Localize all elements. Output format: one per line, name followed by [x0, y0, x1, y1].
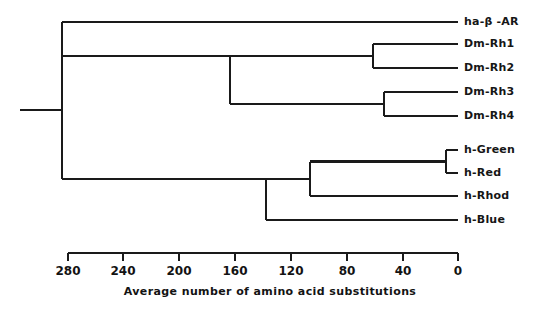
leaf-label-h-red: h-Red [464, 167, 501, 178]
leaf-label-ha-b-ar: ha-β -AR [464, 16, 519, 27]
leaf-label-dm-rh4: Dm-Rh4 [464, 110, 514, 121]
axis-tick-label-0: 0 [454, 265, 462, 277]
axis-tick-label-120: 120 [278, 265, 303, 277]
axis-title: Average number of amino acid substitutio… [0, 286, 540, 297]
leaf-label-h-green: h-Green [464, 144, 515, 155]
axis-tick-label-80: 80 [339, 265, 356, 277]
leaf-label-h-rhod: h-Rhod [464, 190, 509, 201]
leaf-label-dm-rh2: Dm-Rh2 [464, 62, 514, 73]
axis-tick-label-280: 280 [55, 265, 80, 277]
leaf-label-dm-rh1: Dm-Rh1 [464, 38, 514, 49]
axis-tick-label-200: 200 [166, 265, 191, 277]
leaf-label-dm-rh3: Dm-Rh3 [464, 86, 514, 97]
axis-tick-label-240: 240 [110, 265, 135, 277]
axis-scale-line [68, 253, 458, 261]
axis-tick-label-160: 160 [222, 265, 247, 277]
axis-tick-label-40: 40 [395, 265, 412, 277]
tree-branch-lines [20, 22, 458, 220]
phylogenetic-tree-figure: ha-β -ARDm-Rh1Dm-Rh2Dm-Rh3Dm-Rh4h-Greenh… [0, 0, 540, 316]
leaf-label-h-blue: h-Blue [464, 214, 505, 225]
